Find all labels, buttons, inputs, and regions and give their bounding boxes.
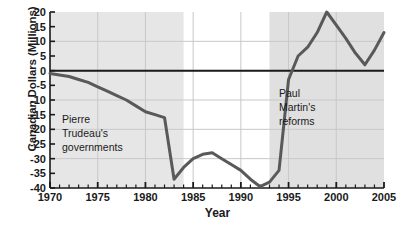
annotation-trudeau-line2: Trudeau's bbox=[62, 126, 123, 140]
annotation-trudeau-line1: Pierre bbox=[62, 112, 123, 126]
x-tick-label-1975: 1975 bbox=[74, 192, 122, 203]
annotation-martin-line3: reforms bbox=[279, 114, 315, 128]
x-tick-label-1990: 1990 bbox=[217, 192, 265, 203]
annotation-martin: Paul Martin's reforms bbox=[279, 86, 315, 128]
x-tick-label-2000: 2000 bbox=[312, 192, 360, 203]
annotation-martin-line1: Paul bbox=[279, 86, 315, 100]
annotation-trudeau-line3: governments bbox=[62, 140, 123, 154]
x-axis-title: Year bbox=[50, 206, 385, 220]
annotation-trudeau: Pierre Trudeau's governments bbox=[62, 112, 123, 154]
x-tick-label-1985: 1985 bbox=[169, 192, 217, 203]
x-tick-label-1970: 1970 bbox=[26, 192, 74, 203]
annotation-martin-line2: Martin's bbox=[279, 100, 315, 114]
x-tick-label-1980: 1980 bbox=[121, 192, 169, 203]
x-tick-label-1995: 1995 bbox=[265, 192, 313, 203]
x-tick-label-2005: 2005 bbox=[360, 192, 401, 203]
